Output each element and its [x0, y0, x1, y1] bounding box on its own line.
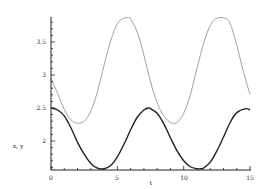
- y-tick-label-2.5: 2.5: [36, 104, 46, 111]
- x-tick-label-10: 10: [180, 174, 188, 181]
- x-ticks: [51, 166, 250, 170]
- x-tick-label-0: 0: [49, 174, 53, 181]
- y-axis-label: x, y: [13, 142, 24, 150]
- chart: 0 5 10 15 2 2.5 3 3.5 t x, y: [0, 0, 264, 189]
- y-tick-label-3: 3: [42, 71, 46, 78]
- axes: 0 5 10 15 2 2.5 3 3.5 t x, y: [13, 17, 254, 186]
- series-y-line: [51, 17, 250, 123]
- x-tick-label-5: 5: [115, 174, 119, 181]
- x-axis-label: t: [150, 179, 153, 186]
- x-tick-label-15: 15: [246, 174, 254, 181]
- series-layer: [51, 17, 250, 169]
- y-ticks: [51, 22, 55, 167]
- y-tick-label-3.5: 3.5: [36, 38, 46, 45]
- series-x-line: [51, 108, 250, 169]
- y-tick-label-2: 2: [42, 137, 46, 144]
